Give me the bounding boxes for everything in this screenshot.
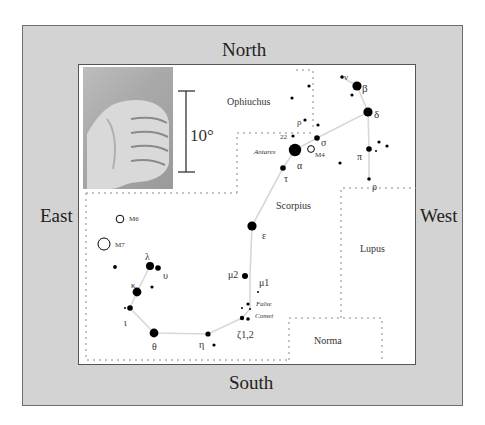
star-tau bbox=[280, 165, 286, 171]
label-alpha: α bbox=[297, 160, 303, 171]
clusters bbox=[98, 146, 314, 250]
label-beta: β bbox=[362, 82, 368, 94]
label-false: False bbox=[255, 300, 272, 308]
label-eta: η bbox=[199, 339, 204, 350]
label-pi: π bbox=[357, 151, 362, 162]
scale-label: 10° bbox=[190, 126, 214, 145]
label-ophiuchus: Ophiuchus bbox=[227, 96, 270, 107]
label-22: 22 bbox=[280, 133, 288, 141]
label-norma: Norma bbox=[314, 335, 342, 346]
label-upsilon: υ bbox=[163, 270, 168, 281]
star-lambda bbox=[146, 262, 154, 270]
label-iota: ι bbox=[124, 317, 127, 328]
star-rho-oph bbox=[303, 118, 306, 121]
star-theta bbox=[150, 329, 159, 338]
label-theta: θ bbox=[152, 341, 157, 352]
stars bbox=[113, 75, 389, 346]
constellation-lines bbox=[130, 77, 369, 334]
star-epsilon bbox=[247, 221, 256, 230]
label-antares: Antares bbox=[253, 148, 276, 156]
cluster-m6 bbox=[116, 215, 124, 223]
label-nu: ν bbox=[344, 72, 348, 82]
label-rho-oph: ρ bbox=[297, 117, 302, 127]
label-mu1: μ1 bbox=[259, 277, 269, 288]
chart-svg: 10° Ophiuchus Scorpius Lupus Norma β δ ν… bbox=[0, 0, 485, 425]
star-beta bbox=[352, 81, 361, 90]
label-zeta: ζ1,2 bbox=[237, 329, 254, 341]
star-delta bbox=[363, 107, 372, 116]
label-tau: τ bbox=[284, 173, 288, 184]
star-rho bbox=[367, 177, 371, 181]
label-scorpius: Scorpius bbox=[276, 200, 311, 211]
label-lupus: Lupus bbox=[360, 243, 385, 254]
label-m6: M6 bbox=[129, 215, 139, 223]
star-upsilon bbox=[155, 265, 161, 271]
star-antares bbox=[289, 144, 301, 156]
star-iota bbox=[127, 305, 133, 311]
label-comet: Comet bbox=[255, 312, 274, 320]
star-pi bbox=[366, 146, 372, 152]
star-mu2 bbox=[242, 273, 248, 279]
label-m7: M7 bbox=[115, 241, 125, 249]
label-epsilon: ε bbox=[262, 230, 266, 241]
star-22 bbox=[291, 134, 294, 137]
label-lambda: λ bbox=[145, 251, 150, 262]
label-m4: M4 bbox=[315, 151, 325, 159]
cluster-m7 bbox=[98, 238, 110, 250]
label-mu2: μ2 bbox=[228, 269, 238, 280]
label-rho: ρ bbox=[372, 181, 377, 192]
star-eta bbox=[205, 331, 210, 336]
label-sigma: σ bbox=[321, 137, 327, 148]
label-delta: δ bbox=[374, 108, 379, 120]
cluster-m4 bbox=[308, 146, 315, 153]
star-sigma bbox=[314, 135, 320, 141]
star-zeta bbox=[240, 316, 244, 320]
label-kappa: κ bbox=[131, 280, 136, 290]
